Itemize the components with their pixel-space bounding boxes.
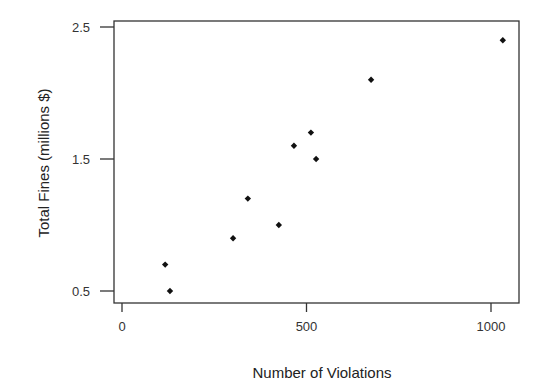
data-point <box>162 261 168 267</box>
y-axis-title: Total Fines (millions $) <box>35 88 52 237</box>
x-tick-label: 1000 <box>477 319 506 334</box>
data-point <box>368 77 374 83</box>
data-point <box>276 222 282 228</box>
y-axis: 0.51.52.5 <box>72 20 114 299</box>
data-point <box>308 129 314 135</box>
data-point <box>167 288 173 294</box>
y-tick-label: 2.5 <box>72 20 90 35</box>
x-axis-title: Number of Violations <box>253 364 392 381</box>
data-point <box>291 143 297 149</box>
plot-frame <box>114 21 519 303</box>
data-point <box>313 156 319 162</box>
data-point <box>245 195 251 201</box>
x-tick-label: 0 <box>118 319 125 334</box>
y-tick-label: 1.5 <box>72 152 90 167</box>
x-tick-label: 500 <box>296 319 318 334</box>
data-points <box>162 37 506 294</box>
data-point <box>500 37 506 43</box>
y-tick-label: 0.5 <box>72 284 90 299</box>
x-axis: 05001000 <box>118 303 505 334</box>
scatter-chart: 05001000 0.51.52.5 Number of Violations … <box>0 0 547 392</box>
data-point <box>230 235 236 241</box>
